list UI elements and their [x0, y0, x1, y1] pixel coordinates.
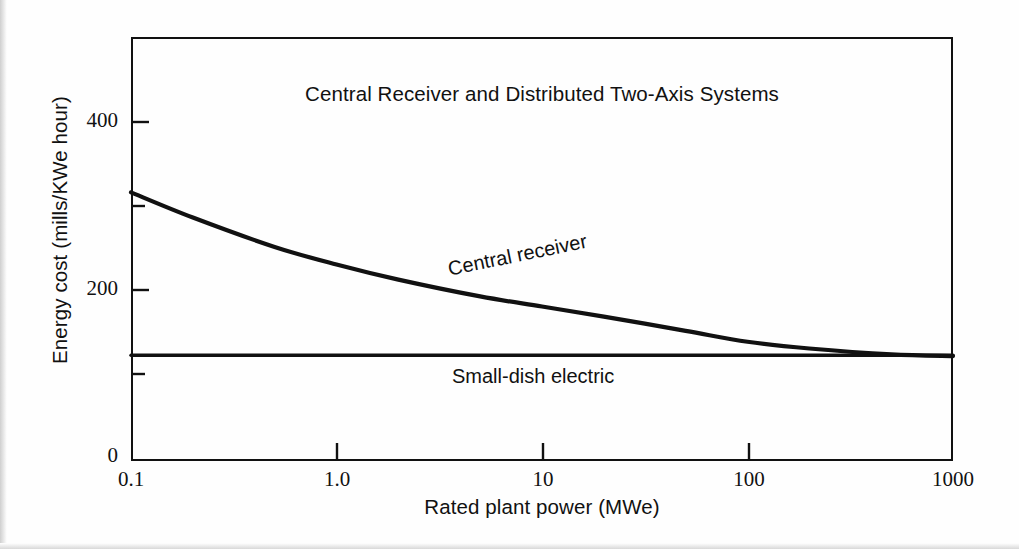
x-tick-label-10: 10: [513, 467, 573, 492]
x-tick-label-1-0: 1.0: [307, 467, 367, 492]
x-tick-label-1000: 1000: [918, 467, 988, 492]
scan-edge-bottom: [0, 543, 1019, 549]
scan-edge-left: [0, 0, 7, 549]
chart-figure: Energy cost (mills/KWe hour) Rated plant…: [0, 0, 1019, 549]
chart-title: Central Receiver and Distributed Two-Axi…: [131, 82, 953, 106]
series-label-small-dish-electric: Small-dish electric: [452, 365, 614, 388]
y-tick-label-200: 200: [58, 276, 118, 301]
x-tick-label-100: 100: [719, 467, 779, 492]
y-axis-title: Energy cost (mills/KWe hour): [48, 20, 72, 440]
x-tick-label-0-1: 0.1: [101, 467, 161, 492]
y-tick-label-400: 400: [58, 108, 118, 133]
y-tick-label-0: 0: [88, 443, 118, 468]
x-axis-title: Rated plant power (MWe): [131, 495, 953, 519]
